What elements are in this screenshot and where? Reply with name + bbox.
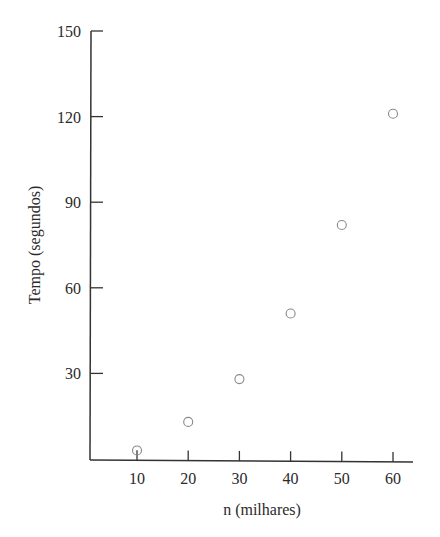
data-point [337, 221, 346, 230]
data-points [133, 109, 398, 455]
y-axis-ticks: 306090120150 [57, 23, 103, 382]
x-tick-label: 30 [231, 470, 247, 487]
data-point [184, 417, 193, 426]
x-tick-label: 40 [283, 470, 299, 487]
y-tick-label: 90 [65, 194, 81, 211]
x-axis-ticks: 102030405060 [129, 450, 401, 487]
y-tick-label: 60 [65, 280, 81, 297]
y-axis-label: Tempo (segundos) [26, 186, 44, 304]
x-tick-label: 10 [129, 470, 145, 487]
y-tick-label: 120 [57, 109, 81, 126]
x-tick-label: 50 [334, 470, 350, 487]
scatter-chart: 306090120150 102030405060 n (milhares) T… [0, 0, 440, 537]
y-tick-label: 30 [65, 365, 81, 382]
axes [90, 31, 413, 462]
x-axis-label: n (milhares) [223, 501, 301, 519]
x-axis-line [90, 460, 413, 462]
data-point [235, 375, 244, 384]
y-axis-line [90, 31, 91, 460]
data-point [286, 309, 295, 318]
x-tick-label: 60 [385, 470, 401, 487]
y-tick-label: 150 [57, 23, 81, 40]
x-tick-label: 20 [180, 470, 196, 487]
data-point [389, 109, 398, 118]
